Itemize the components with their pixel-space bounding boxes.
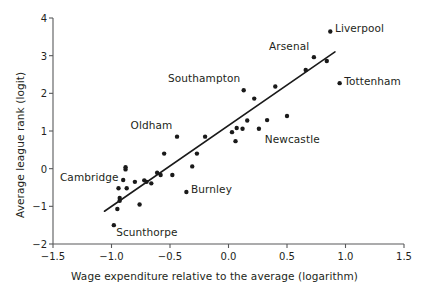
- x-tick-label: −1.0: [99, 251, 123, 262]
- data-point: [233, 139, 237, 143]
- data-point: [170, 173, 174, 177]
- y-tick-label: 1: [27, 126, 47, 137]
- x-tick-label: 0.0: [221, 251, 237, 262]
- annotation-burnley: Burnley: [191, 183, 232, 195]
- data-point: [149, 181, 153, 185]
- data-point: [203, 134, 207, 138]
- annotation-arsenal: Arsenal: [269, 40, 309, 52]
- data-point: [242, 88, 246, 92]
- data-point: [328, 29, 332, 33]
- data-point: [115, 207, 119, 211]
- y-axis-title: Average league rank (logit): [14, 72, 26, 218]
- x-tick-label: 0.5: [279, 251, 295, 262]
- data-point: [144, 180, 148, 184]
- data-point: [133, 180, 137, 184]
- data-point: [240, 127, 244, 131]
- annotation-newcastle: Newcastle: [265, 133, 320, 145]
- data-point: [273, 84, 277, 88]
- annotation-tottenham: Tottenham: [344, 75, 401, 87]
- data-point: [137, 202, 141, 206]
- data-point: [195, 151, 199, 155]
- data-point: [245, 118, 249, 122]
- axes: [49, 18, 404, 248]
- annotation-oldham: Oldham: [131, 119, 173, 131]
- scatter-plot-figure: −1.5−1.0−0.50.00.51.01.5−2−101234 Liverp…: [0, 0, 429, 295]
- data-point: [252, 96, 256, 100]
- y-tick-label: 4: [27, 13, 47, 24]
- x-tick-label: 1.5: [396, 251, 412, 262]
- data-point: [230, 130, 234, 134]
- data-point: [285, 114, 289, 118]
- x-tick-label: −0.5: [158, 251, 182, 262]
- x-tick-label: 1.0: [338, 251, 354, 262]
- data-point: [234, 126, 238, 130]
- data-point: [175, 134, 179, 138]
- data-point: [325, 59, 329, 63]
- y-tick-label: −2: [27, 239, 47, 250]
- data-point: [158, 173, 162, 177]
- y-tick-label: 3: [27, 50, 47, 61]
- annotation-scunthorpe: Scunthorpe: [116, 226, 177, 238]
- data-point: [117, 196, 121, 200]
- data-point: [312, 55, 316, 59]
- data-point: [162, 151, 166, 155]
- annotation-liverpool: Liverpool: [335, 22, 384, 34]
- data-point: [337, 81, 341, 85]
- data-point: [123, 165, 127, 169]
- x-tick-label: −1.5: [41, 251, 65, 262]
- x-axis-title: Wage expenditure relative to the average…: [0, 270, 429, 282]
- data-point: [121, 178, 125, 182]
- data-point: [184, 190, 188, 194]
- annotation-cambridge: Cambridge: [60, 171, 119, 183]
- data-point: [265, 118, 269, 122]
- y-tick-label: 0: [27, 163, 47, 174]
- data-point: [116, 186, 120, 190]
- data-point: [125, 186, 129, 190]
- data-point: [304, 68, 308, 72]
- data-point: [257, 127, 261, 131]
- annotation-southampton: Southampton: [168, 72, 240, 84]
- y-tick-label: −1: [27, 201, 47, 212]
- data-point: [190, 164, 194, 168]
- y-tick-label: 2: [27, 88, 47, 99]
